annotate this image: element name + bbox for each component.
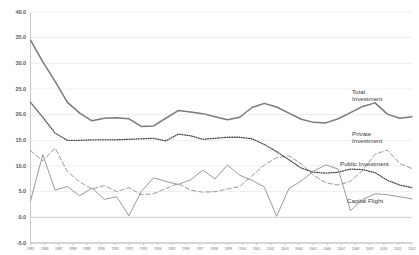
x-axis-tick-label: 1985 [27, 247, 34, 251]
x-axis-tick-label: 1998 [211, 247, 218, 251]
x-axis-tick-label: 1995 [168, 247, 175, 251]
y-axis-tick-label: 25.0 [0, 86, 26, 92]
x-axis-tick-label: 2012 [408, 247, 415, 251]
x-axis-tick-label: 1999 [225, 247, 232, 251]
x-axis-tick-label: 2000 [239, 247, 246, 251]
y-axis-tick-label: -5.0 [0, 240, 26, 246]
y-axis-tick-label: 30.0 [0, 60, 26, 66]
y-axis-tick-label: 0.0 [0, 214, 26, 220]
x-axis-tick-label: 2009 [366, 247, 373, 251]
series-label-private-investment: Private Investment [352, 130, 382, 145]
x-axis-tick-label: 1996 [182, 247, 189, 251]
series-line-public-investment [31, 102, 413, 187]
y-axis-tick-label: 5.0 [0, 188, 26, 194]
x-axis-tick-label: 1987 [55, 247, 62, 251]
y-axis-tick-label: 40.0 [0, 9, 26, 15]
series-label-total-investment: Total Investment [352, 88, 382, 103]
series-label-private-investment-line2: Investment [352, 137, 382, 144]
x-axis-tick-label: 2010 [380, 247, 387, 251]
x-axis-tick-label: 2011 [394, 247, 401, 251]
x-axis-tick-label: 1989 [83, 247, 90, 251]
y-axis-tick-label: 10.0 [0, 163, 26, 169]
series-label-capital-flight: Capital Flight [347, 197, 383, 204]
x-axis-tick-label: 1992 [126, 247, 133, 251]
series-label-public-investment: Public Investment [340, 160, 389, 167]
x-axis-tick-label: 2005 [309, 247, 316, 251]
series-label-private-investment-line1: Private [352, 130, 382, 137]
plot-area [0, 0, 419, 255]
series-label-total-investment-line2: Investment [352, 95, 382, 102]
chart-container: 40.035.030.025.020.015.010.05.00.0-5.0 1… [0, 0, 419, 255]
y-axis-tick-label: 20.0 [0, 111, 26, 117]
x-axis-tick-label: 1993 [140, 247, 147, 251]
y-axis-tick-label: 15.0 [0, 137, 26, 143]
x-axis-tick-label: 2003 [281, 247, 288, 251]
series-label-total-investment-line1: Total [352, 88, 382, 95]
x-axis-tick-label: 2006 [324, 247, 331, 251]
x-axis-tick-label: 2008 [352, 247, 359, 251]
x-axis-tick-label: 1997 [196, 247, 203, 251]
x-axis-tick-label: 1986 [41, 247, 48, 251]
y-axis-tick-label: 35.0 [0, 34, 26, 40]
x-axis-tick-label: 1990 [97, 247, 104, 251]
x-axis-tick-label: 1988 [69, 247, 76, 251]
x-axis-tick-label: 2007 [338, 247, 345, 251]
x-axis-tick-label: 1991 [112, 247, 119, 251]
x-axis-tick-label: 2004 [295, 247, 302, 251]
x-axis-tick-label: 1994 [154, 247, 161, 251]
x-axis-tick-label: 2002 [267, 247, 274, 251]
x-axis-tick-label: 2001 [253, 247, 260, 251]
series-line-total-investment [31, 40, 413, 126]
